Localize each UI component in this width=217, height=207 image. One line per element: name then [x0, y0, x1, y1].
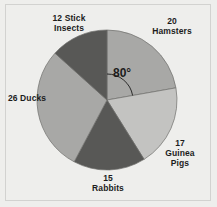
slice-label-stick-insects: 12 Stick Insects	[38, 13, 100, 33]
slice-label-hamsters: 20 Hamsters	[142, 16, 202, 36]
slice-label-ducks: 26 Ducks	[8, 93, 66, 103]
angle-annotation-label: 80°	[113, 66, 131, 80]
pie-chart-figure: 12 Stick Insects 20 Hamsters 26 Ducks 17…	[0, 0, 217, 207]
slice-label-rabbits: 15 Rabbits	[77, 173, 139, 193]
slice-label-guinea-pigs: 17 Guinea Pigs	[156, 138, 204, 168]
